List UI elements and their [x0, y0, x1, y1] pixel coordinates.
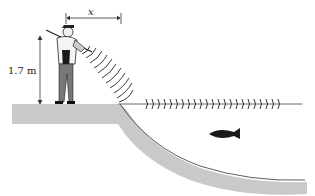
distance-label: x: [88, 6, 94, 17]
height-dimension: [38, 36, 42, 104]
light-waves: [82, 46, 133, 102]
height-label: 1.7 m: [8, 65, 37, 76]
ground-bank: [12, 104, 307, 195]
fisherman: [46, 25, 92, 104]
fish: [209, 128, 240, 139]
diagram-canvas: [0, 0, 315, 196]
diagram: 1.7 m x: [0, 0, 315, 196]
